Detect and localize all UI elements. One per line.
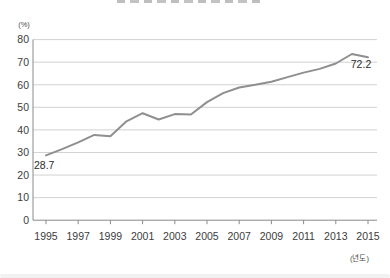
x-tick-label: 2013 xyxy=(324,230,348,242)
x-tick-label: 2005 xyxy=(195,230,219,242)
x-tick-label: 2015 xyxy=(356,230,380,242)
x-tick-label: 2011 xyxy=(292,230,315,242)
axes xyxy=(33,40,368,225)
y-tick-label: 50 xyxy=(17,101,29,113)
x-tick-label: 2003 xyxy=(163,230,187,242)
bottom-divider xyxy=(0,274,390,278)
chart-card: 01020304050607080 1995199719992001200320… xyxy=(0,0,390,278)
x-tick-label: 2001 xyxy=(131,230,155,242)
point-labels: 28.772.2 xyxy=(34,58,371,171)
x-axis-unit-label: (년도) xyxy=(350,253,369,263)
line-chart: 01020304050607080 1995199719992001200320… xyxy=(0,0,390,278)
y-tick-labels: 01020304050607080 xyxy=(17,33,29,226)
y-tick-label: 30 xyxy=(17,146,29,158)
point-label: 72.2 xyxy=(351,58,372,70)
x-tick-label: 2007 xyxy=(228,230,252,242)
x-tick-label: 2009 xyxy=(260,230,284,242)
x-tick-label: 1999 xyxy=(99,230,123,242)
y-tick-label: 40 xyxy=(17,124,29,136)
data-line xyxy=(46,54,368,155)
y-tick-label: 60 xyxy=(17,79,29,91)
y-tick-label: 20 xyxy=(17,169,29,181)
x-tick-labels: 1995199719992001200320052007200920112013… xyxy=(34,230,380,242)
y-tick-label: 80 xyxy=(17,33,29,45)
y-tick-label: 0 xyxy=(23,214,29,226)
y-axis-unit-label: (%) xyxy=(18,20,30,29)
x-tick-label: 1997 xyxy=(67,230,91,242)
point-label: 28.7 xyxy=(34,159,55,171)
y-tick-label: 10 xyxy=(17,191,29,203)
x-tick-label: 1995 xyxy=(34,230,58,242)
y-tick-label: 70 xyxy=(17,56,29,68)
